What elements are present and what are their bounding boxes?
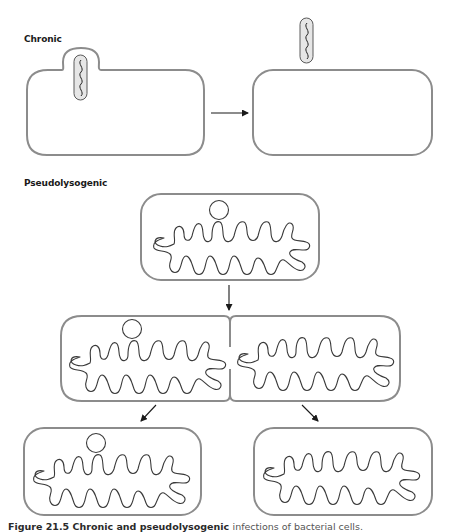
daughter-cell-without-phage: [254, 428, 432, 515]
figure-number: Figure 21.5: [8, 521, 69, 532]
figure-caption-text: infections of bacterial cells.: [233, 521, 363, 532]
figure-title: Chronic and pseudolysogenic: [73, 521, 230, 532]
phage-genome-circle-icon: [87, 434, 106, 453]
chronic-infected-cell: [27, 48, 204, 155]
chronic-cell-after-release: [253, 70, 432, 155]
bacterial-chromosome-icon: [264, 452, 420, 505]
phage-particle-icon: [74, 55, 87, 100]
released-phage-icon: [300, 18, 313, 63]
phage-genome-circle-icon: [123, 320, 142, 339]
phage-genome-circle-icon: [210, 201, 229, 220]
bacterial-chromosome-icon: [238, 338, 394, 391]
bacterial-chromosome-icon: [154, 222, 310, 275]
figure-caption: Figure 21.5 Chronic and pseudolysogenic …: [8, 521, 363, 532]
dividing-cell-right: [230, 316, 400, 401]
daughter-arrow-right: [302, 405, 318, 421]
daughter-arrow-left: [141, 405, 156, 421]
bacterial-chromosome-icon: [70, 341, 226, 394]
bacterial-chromosome-icon: [34, 455, 190, 508]
